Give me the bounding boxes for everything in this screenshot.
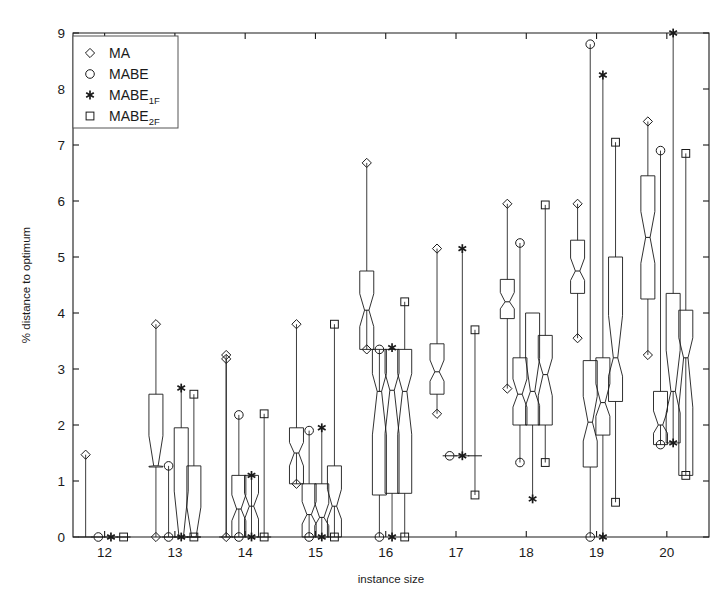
y-tick-label: 4 xyxy=(57,306,65,321)
y-tick-label: 1 xyxy=(57,474,65,489)
box-17-MABE_1F-outlier-asterisk xyxy=(459,244,467,253)
box-17-MA-body xyxy=(430,344,444,394)
box-18-MA-body xyxy=(500,279,514,318)
x-tick-label: 15 xyxy=(308,545,323,560)
y-tick-label: 0 xyxy=(57,530,65,545)
box-13-MABE_1F-outlier-asterisk xyxy=(177,384,185,393)
box-16-MABE_2F-body xyxy=(398,349,412,493)
y-tick-label: 3 xyxy=(57,362,65,377)
y-tick-label: 8 xyxy=(57,82,65,97)
box-19-MABE_1F-outlier-asterisk xyxy=(599,71,607,80)
x-tick-label: 16 xyxy=(378,545,393,560)
x-tick-label: 13 xyxy=(167,545,182,560)
legend-label-1: MABE xyxy=(109,66,149,82)
x-tick-label: 12 xyxy=(97,545,112,560)
y-tick-label: 5 xyxy=(57,250,65,265)
y-tick-label: 9 xyxy=(57,26,65,41)
legend-subscript-2: 1F xyxy=(149,95,160,106)
box-18-MABE_1F-outlier-asterisk xyxy=(529,495,537,504)
box-15-MABE_1F-outlier-asterisk xyxy=(318,423,326,432)
x-tick-label: 18 xyxy=(519,545,534,560)
box-13-MABE_1F-body xyxy=(174,428,188,537)
x-tick-label: 19 xyxy=(589,545,604,560)
box-19-MABE_2F-body xyxy=(609,257,623,401)
box-16-MABE_1F-outlier-asterisk xyxy=(388,343,396,352)
y-tick-label: 7 xyxy=(57,138,65,153)
box-16-MABE_1F-body xyxy=(385,349,399,493)
legend-subscript-3: 2F xyxy=(149,116,160,127)
box-18-MABE-body xyxy=(513,358,527,425)
legend-label-0: MA xyxy=(109,45,131,61)
x-tick-label: 17 xyxy=(448,545,463,560)
box-19-MA-body xyxy=(571,240,585,293)
box-19-MABE_1F-body xyxy=(596,358,610,435)
x-axis-label: instance size xyxy=(358,573,424,585)
y-tick-label: 6 xyxy=(57,194,65,209)
plot-canvas: 0123456789121314151617181920instance siz… xyxy=(0,0,724,600)
y-axis-label: % distance to optimum xyxy=(20,227,32,343)
y-tick-label: 2 xyxy=(57,418,65,433)
box-13-MABE_2F-body xyxy=(187,466,201,537)
x-tick-label: 14 xyxy=(238,545,254,560)
box-18-MABE_1F-body xyxy=(526,313,540,425)
x-tick-label: 20 xyxy=(659,545,674,560)
boxplot-figure: 0123456789121314151617181920instance siz… xyxy=(0,0,724,600)
box-13-MA-body xyxy=(149,394,163,467)
box-19-MABE-body xyxy=(583,361,597,467)
box-18-MABE_2F-body xyxy=(538,335,552,425)
